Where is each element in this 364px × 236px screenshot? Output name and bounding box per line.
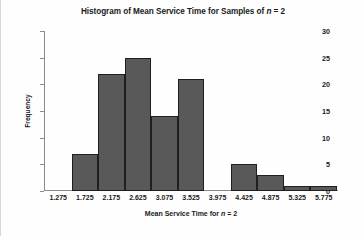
histogram-bar <box>257 175 284 191</box>
histogram-bar <box>284 186 311 191</box>
x-tick-label: 1.275 <box>50 194 68 201</box>
x-tick-label: 5.775 <box>315 194 333 201</box>
histogram-figure: Histogram of Mean Service Time for Sampl… <box>0 0 364 236</box>
y-tick-10 <box>40 138 45 139</box>
y-tick-0 <box>40 191 45 192</box>
y-tick-mark <box>40 31 44 32</box>
y-tick-label: 5 <box>300 160 330 169</box>
y-tick-label: 20 <box>300 80 330 89</box>
y-tick-5 <box>40 164 45 165</box>
y-tick-label: 25 <box>300 53 330 62</box>
x-tick-label: 3.075 <box>156 194 174 201</box>
x-axis-title-prefix: Mean Service Time for <box>145 210 221 217</box>
x-tick-label: 5.325 <box>288 194 306 201</box>
plot-area: Frequency 051015202530 <box>45 31 337 191</box>
y-tick-mark <box>40 111 44 112</box>
histogram-bar <box>231 164 258 191</box>
x-tick-label: 4.875 <box>262 194 280 201</box>
y-tick-label: 30 <box>300 27 330 36</box>
x-tick-label: 2.175 <box>103 194 121 201</box>
histogram-bar <box>72 154 99 191</box>
x-tick-label: 1.725 <box>76 194 94 201</box>
y-tick-mark <box>40 84 44 85</box>
chart-title: Histogram of Mean Service Time for Sampl… <box>1 7 364 16</box>
y-tick-mark <box>40 58 44 59</box>
y-tick-label: 15 <box>300 107 330 116</box>
histogram-bar <box>178 79 205 191</box>
y-tick-label: 10 <box>300 133 330 142</box>
y-tick-mark <box>40 138 44 139</box>
histogram-bar <box>125 58 152 191</box>
x-axis-title-suffix: = 2 <box>225 210 237 217</box>
x-axis-title: Mean Service Time for n = 2 <box>45 210 337 217</box>
y-tick-mark <box>40 164 44 165</box>
x-tick-label: 3.525 <box>182 194 200 201</box>
histogram-bar <box>151 116 178 191</box>
y-tick-20 <box>40 84 45 85</box>
x-tick-label: 3.975 <box>209 194 227 201</box>
y-tick-30 <box>40 31 45 32</box>
y-tick-mark <box>40 191 44 192</box>
chart-title-prefix: Histogram of Mean Service Time for Sampl… <box>81 7 266 16</box>
chart-title-suffix: = 2 <box>271 7 285 16</box>
histogram-bar <box>310 186 337 191</box>
x-tick-label: 2.625 <box>129 194 147 201</box>
y-tick-15 <box>40 111 45 112</box>
x-tick-label: 4.425 <box>235 194 253 201</box>
histogram-bar <box>98 74 125 191</box>
y-axis-title: Frequency <box>24 94 31 127</box>
y-tick-25 <box>40 58 45 59</box>
